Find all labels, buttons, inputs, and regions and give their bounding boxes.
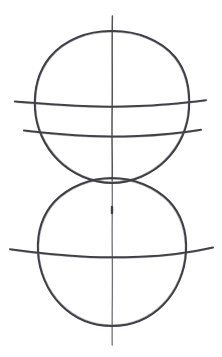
sketch-canvas	[0, 0, 222, 357]
sketch-svg	[0, 0, 222, 357]
